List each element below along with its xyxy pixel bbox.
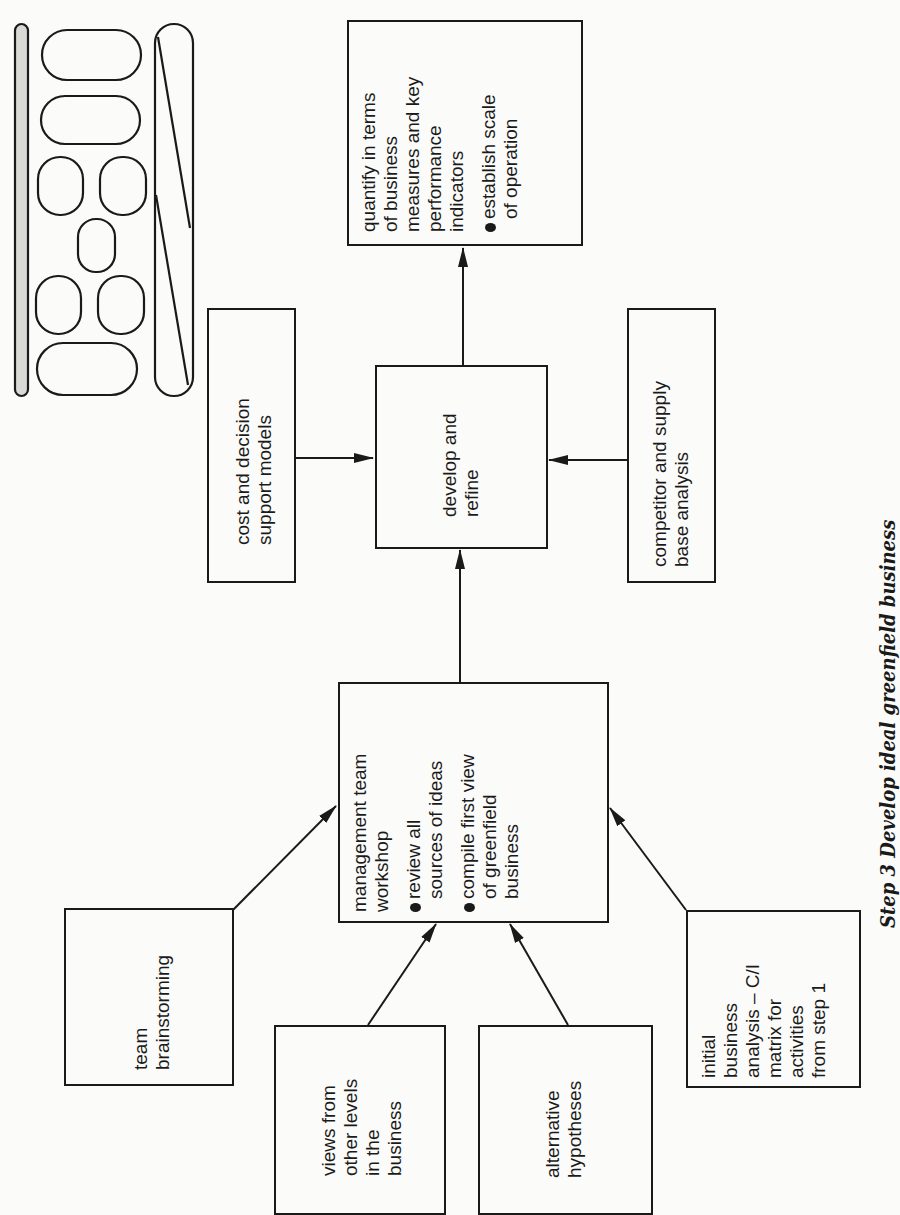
develop-line: refine [461,413,483,517]
kpi-line: quantify in terms [358,77,380,232]
kpi-line: measures and key [402,77,424,232]
kpi-line: of business [380,77,402,232]
develop-line: develop and [439,413,461,517]
edge-hypotheses-to-workshop [510,924,568,1025]
label-initial-analysis: initial business analysis – C/I matrix f… [698,964,830,1078]
initial-analysis-line: matrix for [764,964,786,1078]
views-line: in the [362,1079,384,1176]
process-key-icon [15,24,193,396]
edge-brainstorming-to-workshop [233,806,336,910]
views-line: other levels [340,1079,362,1176]
workshop-bullet-review: review all [403,754,425,912]
label-kpi: quantify in terms of business measures a… [358,77,522,232]
kpi-line: indicators [446,77,468,232]
workshop-bullet-compile: compile first view [457,754,479,912]
label-develop: develop and refine [439,413,483,517]
workshop-line: workshop [371,754,393,912]
initial-analysis-line: activities [786,964,808,1078]
kpi-line: performance [424,77,446,232]
kpi-bullet-scale-cont: of operation [500,77,522,232]
label-cost-models: cost and decision support models [232,398,276,545]
cost-models-line: support models [254,398,276,545]
views-line: business [384,1079,406,1176]
cost-models-line: cost and decision [232,398,254,545]
brainstorming-line: brainstorming [152,955,174,1070]
workshop-bullet-compile-cont: of greenfield [479,754,501,912]
label-competitor: competitor and supply base analysis [649,381,693,567]
kpi-bullet-scale: establish scale [478,77,500,232]
initial-analysis-line: analysis – C/I [742,964,764,1078]
edge-initial-analysis-to-workshop [610,808,686,910]
initial-analysis-line: initial [698,964,720,1078]
figure-caption: Step 3 Develop ideal greenfield business [876,520,900,928]
edge-views-to-workshop [368,924,436,1025]
hypotheses-line: alternative [542,1081,564,1178]
label-workshop: management team workshop review all sour… [349,754,523,912]
views-line: views from [318,1079,340,1176]
hypotheses-line: hypotheses [564,1081,586,1178]
competitor-line: competitor and supply [649,381,671,567]
workshop-bullet-review-cont: sources of ideas [425,754,447,912]
label-brainstorming: team brainstorming [130,955,174,1070]
initial-analysis-line: from step 1 [808,964,830,1078]
label-hypotheses: alternative hypotheses [542,1081,586,1178]
workshop-line: management team [349,754,371,912]
label-views: views from other levels in the business [318,1079,406,1176]
competitor-line: base analysis [671,381,693,567]
brainstorming-line: team [130,955,152,1070]
workshop-bullet-compile-cont: business [501,754,523,912]
initial-analysis-line: business [720,964,742,1078]
